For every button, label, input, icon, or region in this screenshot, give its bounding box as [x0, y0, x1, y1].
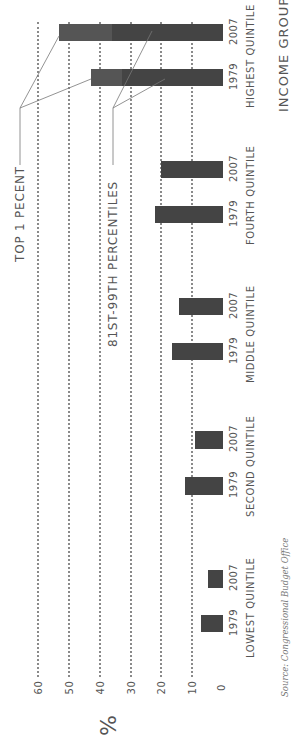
- year-label-second-1979: 1979: [228, 471, 239, 498]
- year-label-middle-1979: 1979: [228, 337, 239, 364]
- category-label-fourth: FOURTH QUINTILE: [245, 145, 256, 245]
- x-axis-title: INCOME GROUP: [276, 0, 291, 112]
- year-label-fourth-1979: 1979: [228, 200, 239, 227]
- year-label-highest-1979: 1979: [228, 63, 239, 90]
- category-label-highest: HIGHEST QUINTILE: [245, 4, 256, 108]
- source-note: Source: Congressional Budget Office: [280, 538, 290, 697]
- callout-81-99-percentiles: 81ST-99TH PERCENTILES: [106, 181, 120, 347]
- year-label-middle-2007: 2007: [228, 292, 239, 319]
- category-label-second: SECOND QUINTILE: [245, 416, 256, 517]
- category-label-lowest: LOWEST QUINTILE: [245, 558, 256, 659]
- year-label-fourth-2007: 2007: [228, 155, 239, 182]
- year-label-second-2007: 2007: [228, 425, 239, 452]
- year-label-lowest-2007: 2007: [228, 564, 239, 591]
- chart-stage: 60 50 40 30 20 10 0 % TOP 1 PECENT: [0, 0, 301, 740]
- year-label-highest-2007: 2007: [228, 18, 239, 45]
- category-label-middle: MIDDLE QUINTILE: [245, 285, 256, 383]
- year-label-lowest-1979: 1979: [228, 609, 239, 636]
- callout-top1-percent: TOP 1 PECENT: [13, 166, 27, 262]
